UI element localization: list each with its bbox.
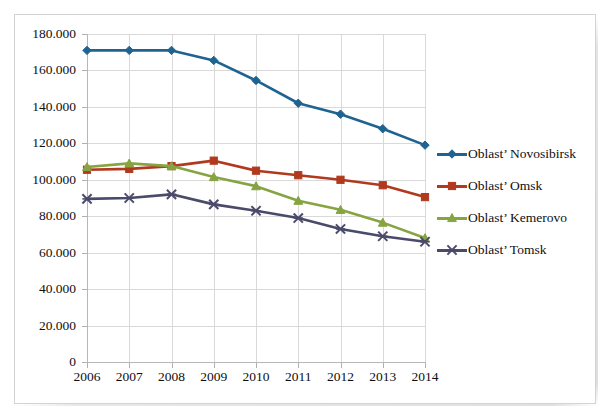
data-point-cross: [251, 206, 260, 215]
legend-key-marker: [437, 211, 467, 225]
data-point-cross: [378, 232, 387, 241]
series-line: [87, 194, 425, 241]
data-point-diamond: [125, 46, 133, 54]
legend-key-marker: [437, 243, 467, 257]
data-point-square: [210, 157, 217, 164]
legend-key-marker: [437, 147, 467, 161]
series-line: [87, 50, 425, 145]
data-point-diamond: [336, 110, 344, 118]
legend-marker-diamond-icon: [437, 147, 467, 161]
series-line: [87, 161, 425, 197]
data-point-square: [421, 193, 428, 200]
data-point-square: [379, 182, 386, 189]
legend-marker-square-icon: [437, 179, 467, 193]
legend-label: Oblast’ Novosibirsk: [467, 147, 576, 161]
data-point-square: [448, 182, 455, 189]
legend-marker-triangle-icon: [437, 211, 467, 225]
legend-item[interactable]: Oblast’ Omsk: [437, 170, 597, 202]
legend-label: Oblast’ Omsk: [467, 179, 542, 193]
legend-label: Oblast’ Tomsk: [467, 243, 546, 257]
data-point-cross: [336, 224, 345, 233]
data-point-diamond: [379, 125, 387, 133]
data-point-cross: [167, 190, 176, 199]
data-point-square: [252, 167, 259, 174]
legend-marker-cross-icon: [437, 243, 467, 257]
data-point-diamond: [167, 46, 175, 54]
data-point-cross: [209, 200, 218, 209]
series-0: [83, 46, 429, 149]
data-point-square: [337, 176, 344, 183]
series-3: [82, 190, 429, 247]
chart-legend: Oblast’ NovosibirskOblast’ OmskOblast’ K…: [437, 138, 597, 266]
legend-key-marker: [437, 179, 467, 193]
data-point-cross: [125, 193, 134, 202]
data-point-diamond: [448, 150, 456, 158]
legend-label: Oblast’ Kemerovo: [467, 211, 567, 225]
legend-item[interactable]: Oblast’ Tomsk: [437, 234, 597, 266]
legend-item[interactable]: Oblast’ Kemerovo: [437, 202, 597, 234]
data-point-square: [295, 172, 302, 179]
data-point-cross: [447, 245, 456, 254]
data-point-diamond: [83, 46, 91, 54]
data-point-diamond: [210, 56, 218, 64]
data-point-diamond: [421, 141, 429, 149]
legend-item[interactable]: Oblast’ Novosibirsk: [437, 138, 597, 170]
data-point-triangle: [448, 214, 457, 222]
data-point-cross: [294, 213, 303, 222]
data-point-cross: [82, 194, 91, 203]
